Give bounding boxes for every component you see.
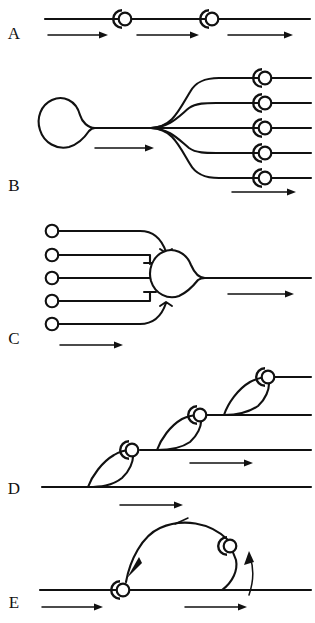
panel-c-input-terminal-3 [46,272,59,285]
node-circle-icon [206,13,219,26]
panel-c-input-terminal-1 [46,225,59,238]
figure-canvas: A B C D E [0,0,315,623]
panel-label-b: B [8,176,19,195]
panel-label-a: A [8,24,21,43]
panel-c-input-terminal-4 [46,295,59,308]
panel-c-input-terminal-2 [46,249,59,262]
panel-label-c: C [8,329,19,348]
panel-label-d: D [8,479,20,498]
panel-label-e: E [9,593,19,612]
neural-circuit-figure: A B C D E [0,0,315,623]
panel-c-input-terminal-5 [46,318,59,331]
node-circle-icon [119,13,132,26]
